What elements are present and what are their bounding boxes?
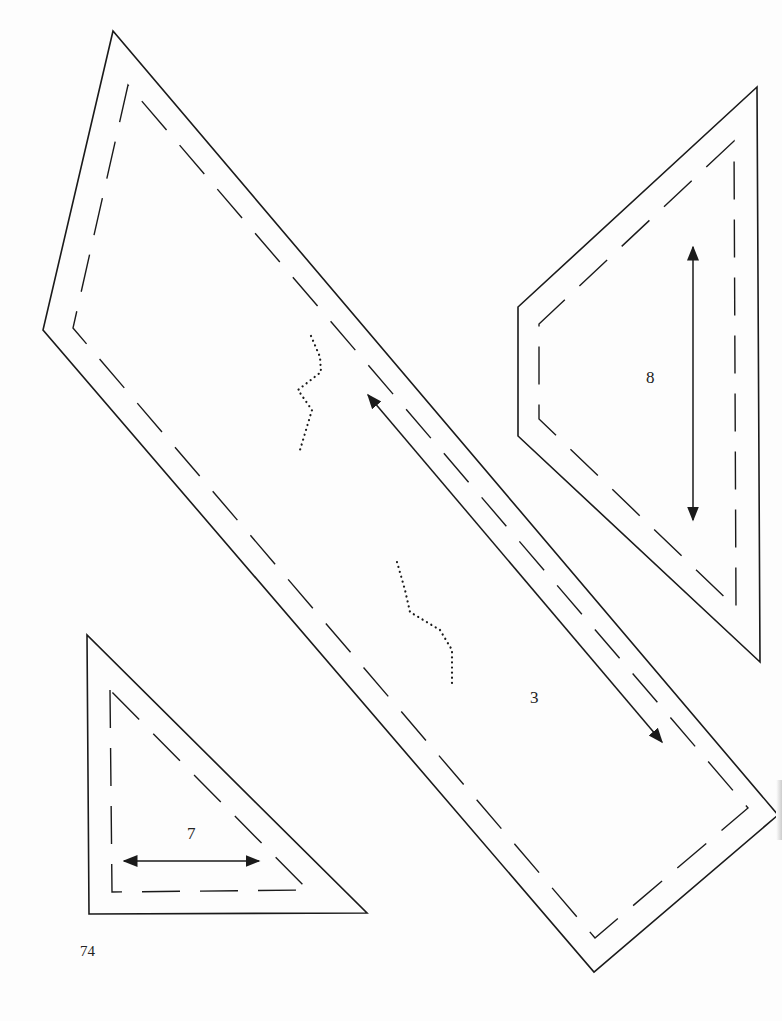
template-piece-8 (518, 87, 760, 662)
pattern-templates-drawing (0, 0, 782, 1021)
template-label-3: 3 (530, 688, 539, 708)
template-label-7: 7 (187, 824, 196, 844)
cutting-line (87, 635, 367, 914)
book-page: 3 8 7 74 (0, 0, 782, 1021)
template-piece-7 (87, 635, 367, 914)
seam-line (73, 85, 748, 938)
seam-line (539, 141, 736, 608)
template-piece-3 (43, 31, 778, 972)
grain-arrow-icon (368, 395, 662, 742)
page-edge-shadow (776, 780, 782, 840)
cutting-line (518, 87, 760, 662)
cutting-line (43, 31, 778, 972)
page-number: 74 (80, 943, 95, 960)
template-label-8: 8 (646, 368, 655, 388)
dotted-placement-line (298, 336, 321, 450)
dotted-placement-line (397, 562, 452, 685)
